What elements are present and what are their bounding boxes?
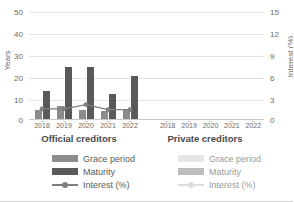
legend-item-interest[interactable]: Interest (%) bbox=[52, 178, 135, 191]
legend-line-marker-icon bbox=[178, 181, 204, 188]
y-axis-left-tick: 20 bbox=[7, 75, 23, 83]
legend-item-maturity[interactable]: Maturity bbox=[52, 165, 135, 178]
panel-caption-private: Private creditors bbox=[155, 133, 255, 144]
legend-label: Maturity bbox=[83, 167, 115, 177]
x-axis-tick-official-2021: 2021 bbox=[97, 122, 119, 129]
interest-marker-official-2020 bbox=[84, 102, 89, 107]
x-axis-tick-private-2020: 2020 bbox=[200, 122, 222, 129]
legend-label: Interest (%) bbox=[209, 180, 256, 190]
y-axis-right-tick: 12 bbox=[270, 31, 286, 39]
plot-area bbox=[29, 10, 264, 120]
y-axis-left-tick: 10 bbox=[7, 97, 23, 105]
dual-axis-combo-chart: Years Interest (%) 50 40 30 20 10 0 15 1… bbox=[0, 0, 293, 202]
interest-marker-official-2019 bbox=[62, 107, 67, 112]
panel-caption-official: Official creditors bbox=[29, 133, 129, 144]
x-axis-tick-private-2021: 2021 bbox=[221, 122, 243, 129]
y-axis-right-tick: 3 bbox=[270, 97, 286, 105]
y-axis-right-tick: 9 bbox=[270, 53, 286, 61]
x-axis-tick-official-2019: 2019 bbox=[53, 122, 75, 129]
y-axis-right-title: Interest (%) bbox=[286, 34, 294, 80]
interest-marker-official-2022 bbox=[128, 107, 133, 112]
interest-marker-official-2021 bbox=[106, 107, 111, 112]
x-axis-tick-private-2019: 2019 bbox=[178, 122, 200, 129]
bottom-divider bbox=[0, 201, 293, 202]
y-axis-left-tick: 30 bbox=[7, 53, 23, 61]
y-axis-left-tick: 40 bbox=[7, 31, 23, 39]
legend-swatch-icon bbox=[178, 155, 204, 162]
y-axis-right-tick: 0 bbox=[270, 117, 286, 125]
legend-swatch-icon bbox=[52, 155, 78, 162]
legend-swatch-icon bbox=[52, 168, 78, 175]
legend-swatch-icon bbox=[178, 168, 204, 175]
legend-label: Maturity bbox=[209, 167, 241, 177]
legend-item-grace-period[interactable]: Grace period bbox=[52, 152, 135, 165]
legend-private: Grace periodMaturityInterest (%) bbox=[178, 152, 261, 191]
legend-item-grace-period[interactable]: Grace period bbox=[178, 152, 261, 165]
y-axis-right-tick: 15 bbox=[270, 9, 286, 17]
legend-item-interest[interactable]: Interest (%) bbox=[178, 178, 261, 191]
legend-label: Grace period bbox=[209, 154, 261, 164]
y-axis-left-tick: 50 bbox=[7, 9, 23, 17]
x-axis-tick-private-2018: 2018 bbox=[157, 122, 179, 129]
legend-label: Grace period bbox=[83, 154, 135, 164]
x-axis-tick-official-2022: 2022 bbox=[119, 122, 141, 129]
y-axis-left-tick: 0 bbox=[7, 117, 23, 125]
interest-marker-official-2018 bbox=[40, 107, 45, 112]
legend-label: Interest (%) bbox=[83, 180, 130, 190]
x-axis-tick-private-2022: 2022 bbox=[242, 122, 264, 129]
legend-official: Grace periodMaturityInterest (%) bbox=[52, 152, 135, 191]
legend-line-marker-icon bbox=[52, 181, 78, 188]
legend-item-maturity[interactable]: Maturity bbox=[178, 165, 261, 178]
y-axis-right-tick: 6 bbox=[270, 75, 286, 83]
x-axis-tick-official-2018: 2018 bbox=[31, 122, 53, 129]
x-axis-tick-official-2020: 2020 bbox=[75, 122, 97, 129]
interest-line-layer bbox=[29, 10, 264, 120]
